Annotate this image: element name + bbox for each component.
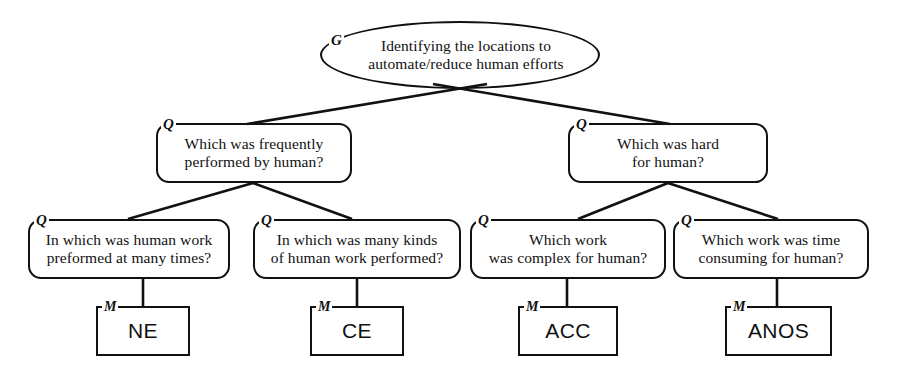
question-node-performed-many-times-text: In which was human work preformed at man… <box>40 231 219 267</box>
question-line2: of human work performed? <box>271 249 443 267</box>
question-node-time-consuming-work-text: Which work was time consuming for human? <box>693 231 850 267</box>
question-node-performed-many-times-tag: Q <box>34 213 49 228</box>
question-line2: was complex for human? <box>489 249 647 267</box>
metric-node-ce-label: CE <box>342 319 372 343</box>
edge-goal-to-q-right <box>433 84 670 124</box>
question-node-frequently-performed-tag: Q <box>161 117 176 132</box>
goal-node-tag: G <box>329 33 344 48</box>
edge-q-right-to-q3 <box>578 183 668 219</box>
question-node-complex-work[interactable]: Which work was complex for human? <box>470 219 666 279</box>
question-node-hard-for-human-text: Which was hard for human? <box>611 135 725 171</box>
metric-node-acc-tag: M <box>524 300 540 314</box>
question-node-many-kinds-of-work[interactable]: In which was many kinds of human work pe… <box>253 219 461 279</box>
metric-node-acc-label: ACC <box>545 319 591 343</box>
question-line1: Which was hard <box>617 135 719 153</box>
question-node-hard-for-human-tag: Q <box>574 117 589 132</box>
edge-goal-to-q-left <box>247 84 487 124</box>
question-node-time-consuming-work-tag: Q <box>679 213 694 228</box>
goal-node-text: Identifying the locations to automate/re… <box>346 37 573 73</box>
question-line1: Which was frequently <box>185 135 324 153</box>
question-node-performed-many-times[interactable]: In which was human work preformed at man… <box>28 219 230 279</box>
question-node-frequently-performed-text: Which was frequently performed by human? <box>179 135 330 171</box>
question-line1: In which was human work <box>46 231 213 249</box>
goal-node-line1: Identifying the locations to <box>368 37 563 55</box>
question-node-time-consuming-work[interactable]: Which work was time consuming for human? <box>673 219 869 279</box>
edge-q-left-to-q1 <box>128 183 253 219</box>
question-line1: Which work <box>489 231 647 249</box>
gqm-tree-diagram: Identifying the locations to automate/re… <box>0 0 901 374</box>
metric-node-anos-label: ANOS <box>748 319 809 343</box>
question-line1: In which was many kinds <box>271 231 443 249</box>
metric-node-anos-tag: M <box>731 300 747 314</box>
question-node-hard-for-human[interactable]: Which was hard for human? <box>568 123 768 183</box>
question-node-complex-work-tag: Q <box>476 213 491 228</box>
question-node-many-kinds-of-work-text: In which was many kinds of human work pe… <box>265 231 449 267</box>
question-line2: consuming for human? <box>699 249 844 267</box>
question-node-frequently-performed[interactable]: Which was frequently performed by human? <box>156 123 352 183</box>
metric-node-ne-label: NE <box>128 319 158 343</box>
question-node-complex-work-text: Which work was complex for human? <box>483 231 653 267</box>
question-node-many-kinds-of-work-tag: Q <box>259 213 274 228</box>
question-line2: for human? <box>617 153 719 171</box>
goal-node-line2: automate/reduce human efforts <box>368 55 563 73</box>
metric-node-ne-tag: M <box>102 300 118 314</box>
question-line1: Which work was time <box>699 231 844 249</box>
goal-node[interactable]: Identifying the locations to automate/re… <box>320 21 600 89</box>
question-line2: performed by human? <box>185 153 324 171</box>
metric-node-ce-tag: M <box>316 300 332 314</box>
question-line2: preformed at many times? <box>46 249 213 267</box>
